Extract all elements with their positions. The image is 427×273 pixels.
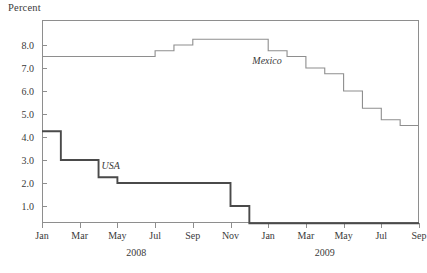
series-label-usa: USA	[102, 160, 120, 171]
series-label-mexico: Mexico	[252, 55, 281, 66]
line-mexico	[42, 39, 419, 125]
line-usa	[42, 131, 419, 223]
